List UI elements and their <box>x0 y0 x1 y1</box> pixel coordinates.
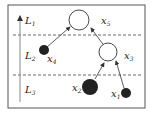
hierarchy-diagram: L1 L2 L3 x5 x3 x4 x2 x1 <box>0 0 150 114</box>
node-x1 <box>121 88 131 98</box>
node-x2 <box>82 79 98 95</box>
node-x3 <box>99 43 117 61</box>
node-x5 <box>69 10 89 30</box>
